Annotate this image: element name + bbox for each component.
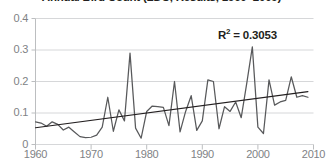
x-tick-label: 2000 [238,148,278,160]
y-tick-label: 0.4 [2,12,28,24]
r-squared-prefix: R [218,29,226,41]
x-tick-label: 1960 [16,148,56,160]
x-tick-label: 1970 [71,148,111,160]
series-annual-value [36,47,308,138]
r-squared-annotation: R2 = 0.3053 [218,27,277,41]
y-tick-label: 0.3 [2,43,28,55]
x-tick-label: 1980 [127,148,167,160]
y-tick-label: 0.2 [2,75,28,87]
x-tick-label: 1990 [182,148,222,160]
series-linear-trendline [36,92,308,128]
y-tick-label: 0.1 [2,106,28,118]
x-tick-label: 2010 [294,148,330,160]
r-squared-suffix: = 0.3053 [230,29,276,41]
